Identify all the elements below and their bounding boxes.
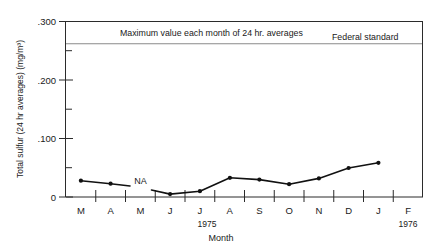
data-point-5 xyxy=(228,176,232,180)
year-label-1975: 1975 xyxy=(198,219,217,229)
data-point-1 xyxy=(109,182,113,186)
year-label-1976: 1976 xyxy=(399,219,418,229)
data-point-0 xyxy=(79,179,83,183)
x-tick-label-11: F xyxy=(405,205,411,216)
x-tick-label-6: S xyxy=(256,205,262,216)
x-tick-label-10: J xyxy=(376,205,381,216)
data-point-10 xyxy=(376,161,380,165)
x-axis-title: Month xyxy=(208,233,233,243)
y-tick-label-0: 0 xyxy=(51,192,56,203)
x-tick-label-7: O xyxy=(285,205,292,216)
data-line-segment-left xyxy=(81,181,130,186)
data-line-segment-right xyxy=(152,163,379,194)
x-tick-label-4: J xyxy=(198,205,203,216)
x-tick-label-1: A xyxy=(107,205,114,216)
data-point-9 xyxy=(347,166,351,170)
y-axis-tick-stubs xyxy=(59,22,65,198)
y-axis-title: Total sulfur (24 hr averages) (mg/m³) xyxy=(15,40,25,178)
x-tick-label-8: N xyxy=(315,205,322,216)
chart-figure: 0 .100 .200 .300 Total sulfur (24 hr ave… xyxy=(0,0,442,246)
y-tick-label-200: .200 xyxy=(38,75,57,86)
y-tick-label-100: .100 xyxy=(38,133,57,144)
x-tick-label-0: M xyxy=(77,205,85,216)
data-point-3 xyxy=(168,192,172,196)
series-note-label: Maximum value each month of 24 hr. avera… xyxy=(120,28,303,38)
x-tick-label-3: J xyxy=(168,205,173,216)
x-tick-label-2: M xyxy=(136,205,144,216)
data-point-8 xyxy=(317,176,321,180)
x-axis-ticks xyxy=(96,190,394,197)
y-axis-minor-ticks xyxy=(66,51,72,168)
data-point-6 xyxy=(257,178,261,182)
na-gap-label: NA xyxy=(134,176,147,186)
x-tick-label-9: D xyxy=(345,205,352,216)
plot-frame xyxy=(66,22,423,198)
y-tick-label-300: .300 xyxy=(38,16,57,27)
data-markers xyxy=(79,161,381,197)
x-axis-tick-stubs xyxy=(96,197,394,202)
data-point-7 xyxy=(287,182,291,186)
sulfur-time-series-chart: 0 .100 .200 .300 Total sulfur (24 hr ave… xyxy=(0,0,442,246)
federal-standard-label: Federal standard xyxy=(332,32,399,42)
data-point-4 xyxy=(198,189,202,193)
x-tick-label-5: A xyxy=(226,205,233,216)
